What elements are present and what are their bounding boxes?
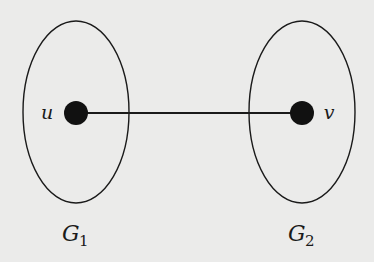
node-v-label: v (324, 101, 335, 123)
subgraph-g2-label-subscript: 2 (305, 232, 315, 250)
node-u (64, 101, 88, 125)
subgraph-g2-label-main: G (288, 221, 306, 246)
node-u-label: u (41, 101, 53, 123)
subgraph-g1-label: G 1 (62, 221, 89, 250)
subgraph-g1-label-subscript: 1 (79, 232, 89, 250)
graph-diagram: u v G 1 G 2 (0, 0, 374, 262)
node-v (290, 101, 314, 125)
subgraph-g2-label: G 2 (288, 221, 315, 250)
subgraph-g1-label-main: G (62, 221, 80, 246)
